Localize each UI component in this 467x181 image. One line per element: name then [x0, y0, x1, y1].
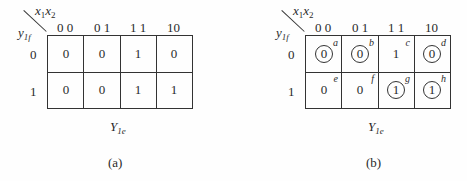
karnaugh-map-b: x1x2 y1f 0 0 0 1 1 1 10 0 1 0 a 0 b 1 c …: [258, 0, 467, 181]
circled-value: 0: [423, 45, 441, 63]
column-variables: x1x2: [35, 4, 56, 20]
output-label: Y1e: [110, 120, 126, 136]
kmap-grid: 0 a 0 b 1 c 0 d 0 e 0 f 1 g 1 h: [305, 35, 451, 109]
col-header-00: 0 0: [315, 21, 331, 34]
cell-h: 1 h: [414, 72, 450, 108]
output-label: Y1e: [368, 120, 384, 136]
cell: 1: [120, 72, 156, 108]
row-header-0: 0: [30, 48, 37, 61]
circled-value: 0: [315, 45, 333, 63]
col-header-01: 0 1: [352, 21, 368, 34]
row-header-1: 1: [30, 85, 37, 98]
cell-d: 0 d: [414, 36, 450, 72]
cell-label: h: [441, 73, 446, 84]
karnaugh-map-a: x1x2 y1f 0 0 0 1 1 1 10 0 1 0 0 1 0 0 0 …: [0, 0, 230, 181]
circled-value: 1: [423, 81, 441, 99]
cell: 0: [48, 36, 84, 72]
kmap-grid: 0 0 1 0 0 0 1 1: [47, 35, 193, 109]
cell-f: 0 f: [342, 72, 378, 108]
col-header-01: 0 1: [94, 21, 110, 34]
cell-label: g: [405, 73, 410, 84]
cell-a: 0 a: [306, 36, 342, 72]
caption: (a): [108, 156, 122, 169]
col-header-00: 0 0: [57, 21, 73, 34]
row-variable: y1f: [18, 26, 31, 42]
row-variable: y1f: [276, 26, 289, 42]
cell: 1: [156, 72, 192, 108]
cell-c: 1 c: [378, 36, 414, 72]
cell-label: a: [333, 37, 338, 48]
col-header-11: 1 1: [388, 21, 404, 34]
cell: 0: [84, 36, 120, 72]
cell-label: d: [441, 37, 446, 48]
row-header-0: 0: [288, 48, 295, 61]
cell-label: b: [369, 37, 374, 48]
cell-label: f: [371, 73, 374, 84]
caption: (b): [366, 156, 381, 169]
circled-value: 1: [387, 81, 405, 99]
column-variables: x1x2: [293, 4, 314, 20]
cell-e: 0 e: [306, 72, 342, 108]
cell-g: 1 g: [378, 72, 414, 108]
cell: 0: [48, 72, 84, 108]
cell: 0: [156, 36, 192, 72]
col-header-10: 10: [425, 21, 438, 34]
cell-b: 0 b: [342, 36, 378, 72]
cell-label: c: [406, 37, 410, 48]
row-header-1: 1: [288, 85, 295, 98]
col-header-11: 1 1: [130, 21, 146, 34]
col-header-10: 10: [167, 21, 180, 34]
cell: 1: [120, 36, 156, 72]
circled-value: 0: [351, 45, 369, 63]
cell-label: e: [334, 73, 338, 84]
cell: 0: [84, 72, 120, 108]
